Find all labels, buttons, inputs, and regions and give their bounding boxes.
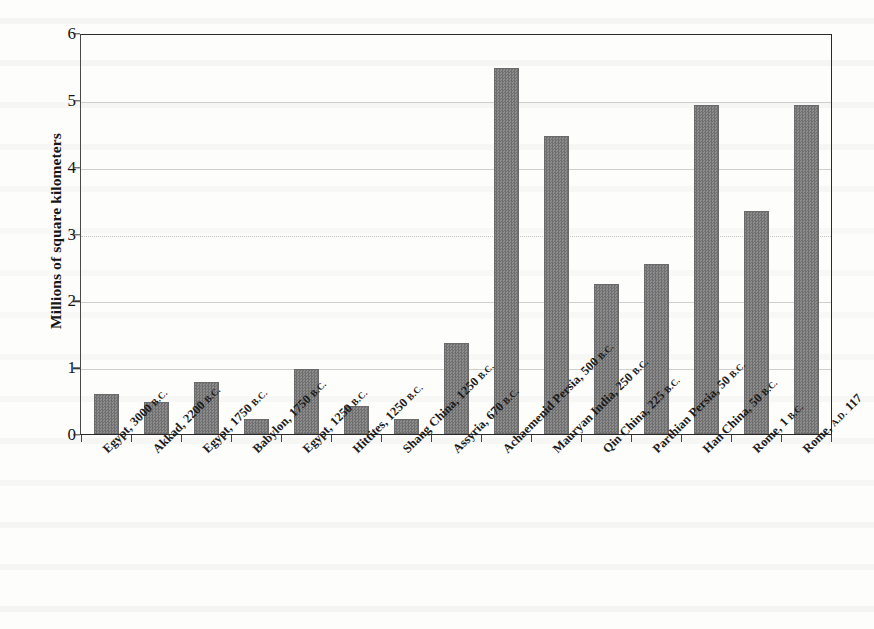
x-axis-tick: [531, 435, 532, 442]
y-axis-label-4: 4: [48, 158, 76, 178]
x-axis-tick: [481, 435, 482, 442]
x-axis-category-labels: Egypt, 3000 B.C.Akkad, 2200 B.C.Egypt, 1…: [81, 446, 831, 626]
bar-series: [81, 35, 831, 434]
y-axis-tick-labels: 0123456: [42, 34, 76, 435]
bar: [494, 68, 519, 434]
y-axis-label-5: 5: [48, 91, 76, 111]
x-axis-tick: [131, 435, 132, 442]
x-axis-tick: [631, 435, 632, 442]
x-axis-tick: [681, 435, 682, 442]
y-axis-label-2: 2: [48, 291, 76, 311]
x-axis-tick: [281, 435, 282, 442]
chart-page: Millions of square kilometers 0123456 Eg…: [0, 0, 874, 629]
x-axis-tick: [731, 435, 732, 442]
x-axis-tick: [381, 435, 382, 442]
y-axis-tick-5: [73, 100, 80, 101]
y-axis-tick-3: [73, 234, 80, 235]
x-axis-tick: [331, 435, 332, 442]
y-axis-tick-2: [73, 301, 80, 302]
bar: [94, 394, 119, 434]
y-axis-label-0: 0: [48, 425, 76, 445]
bar: [794, 105, 819, 434]
x-axis-tick: [431, 435, 432, 442]
x-axis-tick: [81, 435, 82, 442]
y-axis-tick-6: [73, 33, 80, 34]
x-axis-tick: [231, 435, 232, 442]
y-axis-tick-1: [73, 367, 80, 368]
y-axis-label-3: 3: [48, 225, 76, 245]
y-axis-label-1: 1: [48, 358, 76, 378]
y-axis-tick-4: [73, 167, 80, 168]
x-axis-tick: [181, 435, 182, 442]
x-axis-tick: [781, 435, 782, 442]
x-axis-tick: [581, 435, 582, 442]
y-axis-label-6: 6: [48, 24, 76, 44]
y-axis-tick-0: [73, 434, 80, 435]
x-axis-tick: [831, 435, 832, 442]
